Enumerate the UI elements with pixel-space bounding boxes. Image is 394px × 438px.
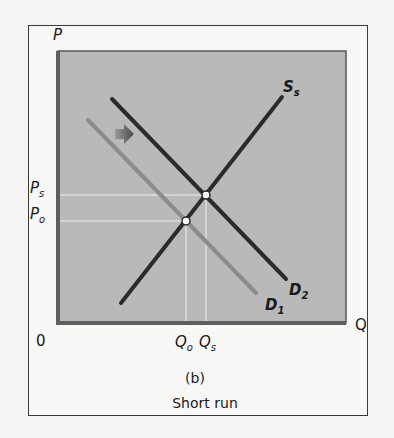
curve-label-d1: D1	[265, 298, 284, 313]
y-axis-label: P	[53, 28, 62, 43]
panel-label: (b)	[145, 371, 245, 385]
curve-label-d2: D2	[289, 283, 308, 298]
tick-label-po: Po	[30, 207, 45, 222]
chart-caption: Short run	[155, 396, 255, 410]
tick-label-qo: Qo	[175, 335, 193, 350]
equilibrium-point-short-run	[202, 191, 210, 199]
curve-label-ss: Ss	[283, 80, 300, 95]
equilibrium-point-initial	[182, 217, 190, 225]
tick-label-qs: Qs	[199, 335, 216, 350]
x-axis-label: Q	[355, 318, 367, 333]
origin-label: 0	[36, 334, 46, 349]
tick-label-ps: Ps	[30, 181, 44, 196]
